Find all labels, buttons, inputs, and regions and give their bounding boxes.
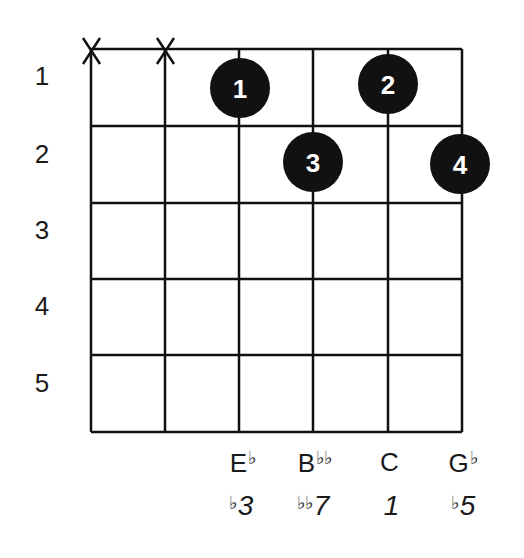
interval-label: ♭3 <box>206 490 276 522</box>
note-letter: G <box>448 448 468 478</box>
fret-label: 1 <box>30 61 54 92</box>
accidental: ♭ <box>248 448 256 468</box>
finger-number: 4 <box>453 150 468 180</box>
degree: 3 <box>238 490 254 521</box>
finger-number: 1 <box>233 74 247 104</box>
fret-label: 4 <box>30 291 54 322</box>
accidental: ♭ <box>229 493 237 513</box>
finger-dot: 1 <box>210 58 270 118</box>
note-letter: C <box>380 447 399 477</box>
finger-dot: 4 <box>430 134 490 194</box>
finger-dot: 3 <box>283 132 343 192</box>
accidental: ♭♭ <box>297 493 313 513</box>
fret-label: 3 <box>30 215 54 246</box>
fret-label: 2 <box>30 139 54 170</box>
note-name: C <box>355 447 425 478</box>
accidental: ♭ <box>451 493 459 513</box>
note-letter: B <box>298 448 315 478</box>
degree: 1 <box>384 490 400 521</box>
finger-number: 3 <box>306 148 320 178</box>
fret-label: 5 <box>30 368 54 399</box>
interval-label: 1 <box>356 490 426 522</box>
interval-label: ♭5 <box>428 490 498 522</box>
note-name: E♭ <box>208 447 278 479</box>
note-name: G♭ <box>428 447 498 479</box>
degree: 5 <box>460 490 476 521</box>
finger-number: 2 <box>381 70 395 100</box>
finger-dot: 2 <box>358 54 418 114</box>
chord-diagram: 1 2 3 4 1 2 3 4 5 E♭ B♭♭ C G♭ ♭3 ♭♭7 1 ♭… <box>0 0 524 558</box>
note-letter: E <box>230 448 247 478</box>
degree: 7 <box>314 490 330 521</box>
accidental: ♭ <box>470 448 478 468</box>
interval-label: ♭♭7 <box>278 490 348 522</box>
accidental: ♭♭ <box>316 448 332 468</box>
note-name: B♭♭ <box>280 447 350 479</box>
